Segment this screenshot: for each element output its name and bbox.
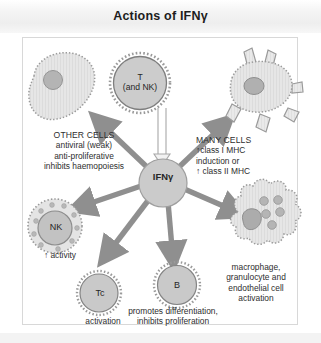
- caption-b-cell-line2: inhibits proliferation: [118, 316, 228, 326]
- arrow-to-b-cell: [168, 202, 172, 248]
- b-cell-shape: [154, 262, 200, 308]
- caption-b-cell: promotes differentiation, inhibits proli…: [118, 306, 228, 327]
- many-cells-shape: [226, 48, 303, 132]
- caption-other-cells-line1: OTHER CELLS: [28, 130, 140, 140]
- caption-macrophage: macrophage, granulocyte and endothelial …: [208, 262, 304, 304]
- caption-nk-cell-line1: ↑ activity: [22, 250, 98, 260]
- caption-nk-cell: ↑ activity: [22, 250, 98, 260]
- caption-macrophage-line1: macrophage,: [208, 262, 304, 272]
- other-cell-shape: [29, 53, 95, 120]
- arrow-to-macrophage: [182, 188, 228, 208]
- nk-cell-shape: [28, 199, 82, 253]
- arrow-to-tc-cell: [112, 198, 150, 248]
- caption-other-cells-line2: antiviral (weak): [28, 140, 140, 150]
- caption-other-cells: OTHER CELLS antiviral (weak) anti-prolif…: [28, 130, 140, 172]
- caption-other-cells-line4: inhibits haemopoiesis: [28, 161, 140, 171]
- caption-macrophage-line3: endothelial cell: [208, 283, 304, 293]
- caption-other-cells-line3: anti-proliferative: [28, 151, 140, 161]
- caption-macrophage-line2: granulocyte and: [208, 272, 304, 282]
- t-and-nk-cell: [110, 53, 170, 113]
- macrophage-shape: [231, 179, 301, 244]
- caption-b-cell-line1: promotes differentiation,: [118, 306, 228, 316]
- ifn-gamma-hub: [139, 159, 187, 207]
- caption-many-cells-line2: ↑class I MHC: [196, 145, 302, 155]
- tc-cell-shape: [77, 271, 121, 315]
- arrow-to-nk-cell: [88, 185, 144, 204]
- caption-many-cells-line4: ↑ class II MHC: [196, 166, 302, 176]
- figure-actions-of-ifn-gamma: Actions of IFNγ: [0, 0, 321, 343]
- caption-many-cells-line3: induction or: [196, 156, 302, 166]
- caption-many-cells: MANY CELLS ↑class I MHC induction or ↑ c…: [196, 135, 302, 177]
- caption-macrophage-line4: activation: [208, 293, 304, 303]
- arrow-t-to-ifng: [154, 108, 170, 166]
- caption-many-cells-line1: MANY CELLS: [196, 135, 302, 145]
